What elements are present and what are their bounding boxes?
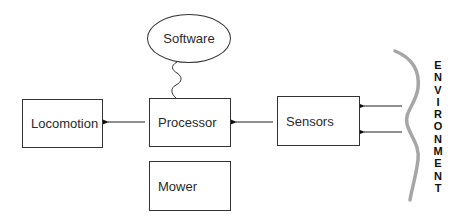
env-letter: T — [435, 182, 442, 194]
env-letter: O — [434, 120, 443, 132]
software-processor-link — [172, 62, 181, 98]
processor-label: Processor — [158, 115, 217, 130]
locomotion-node: Locomotion — [22, 99, 103, 148]
env-letter: R — [434, 108, 442, 120]
env-letter: V — [434, 84, 441, 96]
env-letter: N — [434, 133, 442, 145]
software-node: Software — [147, 14, 231, 63]
mower-label: Mower — [158, 179, 197, 194]
locomotion-label: Locomotion — [31, 116, 98, 131]
sensors-label: Sensors — [286, 114, 334, 129]
environment-label: E N V I R O N M E N T — [432, 59, 444, 194]
env-letter: E — [434, 59, 441, 71]
mower-node: Mower — [149, 161, 231, 211]
processor-node: Processor — [149, 98, 231, 147]
env-letter: M — [433, 145, 442, 157]
environment-boundary — [395, 51, 418, 200]
env-letter: I — [436, 96, 439, 108]
env-letter: N — [434, 71, 442, 83]
env-letter: E — [434, 157, 441, 169]
sensors-node: Sensors — [277, 96, 360, 146]
software-label: Software — [163, 31, 214, 46]
env-letter: N — [434, 170, 442, 182]
